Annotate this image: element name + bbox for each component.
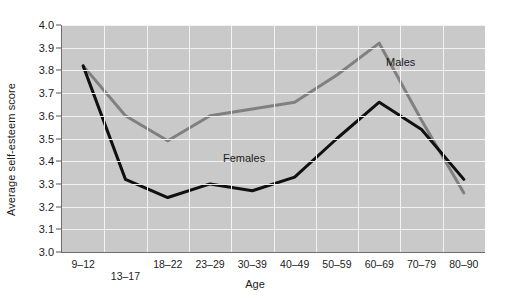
y-axis-tick-mark [56,206,61,207]
y-axis-tick-mark [56,47,61,48]
y-axis-tick-mark [56,138,61,139]
y-axis-title: Average self-esteem score [0,0,22,299]
y-axis-tick-labels: 3.03.13.23.33.43.53.63.73.83.94.0 [24,0,54,299]
gridline-vertical [104,25,105,252]
chart-figure: Average self-esteem score 3.03.13.23.33.… [0,0,510,299]
y-axis-tick-label: 3.2 [28,201,54,213]
x-axis-tick-label: 9–12 [71,258,94,270]
y-axis-tick-label: 3.3 [28,178,54,190]
gridline-vertical [358,25,359,252]
y-axis-tick-label: 3.4 [28,155,54,167]
series-label-males: Males [386,56,415,68]
y-axis-tick-label: 3.1 [28,223,54,235]
x-axis-tick-label: 40–49 [280,258,309,270]
y-axis-tick-mark [56,161,61,162]
y-axis-tick-label: 3.6 [28,110,54,122]
y-axis-tick-label: 3.5 [28,133,54,145]
y-axis-tick-label: 3.8 [28,64,54,76]
gridline-vertical [274,25,275,252]
y-axis-tick-mark [56,25,61,26]
x-axis-tick-label: 50–59 [322,258,351,270]
gridline-vertical [443,25,444,252]
x-axis-tick-label: 23–29 [195,258,224,270]
y-axis-tick-label: 3.9 [28,42,54,54]
y-axis-tick-mark [56,229,61,230]
x-axis-tick-label: 80–90 [449,258,478,270]
y-axis-tick-mark [56,70,61,71]
x-axis-tick-label: 18–22 [153,258,182,270]
x-axis-tick-label: 70–79 [407,258,436,270]
y-axis-tick-mark [56,252,61,253]
y-axis-tick-label: 4.0 [28,19,54,31]
x-axis-line [61,252,485,253]
gridline-vertical [316,25,317,252]
gridline-vertical [147,25,148,252]
y-axis-tick-mark [56,115,61,116]
gridline-vertical [189,25,190,252]
y-axis-tick-label: 3.0 [28,246,54,258]
x-axis-title: Age [0,278,510,290]
plot-area [62,25,485,252]
y-axis-tick-mark [56,93,61,94]
y-axis-tick-label: 3.7 [28,87,54,99]
gridline-vertical [231,25,232,252]
x-axis-tick-label: 60–69 [365,258,394,270]
x-axis-tick-label: 30–39 [238,258,267,270]
series-label-females: Females [223,152,265,164]
y-axis-tick-mark [56,183,61,184]
